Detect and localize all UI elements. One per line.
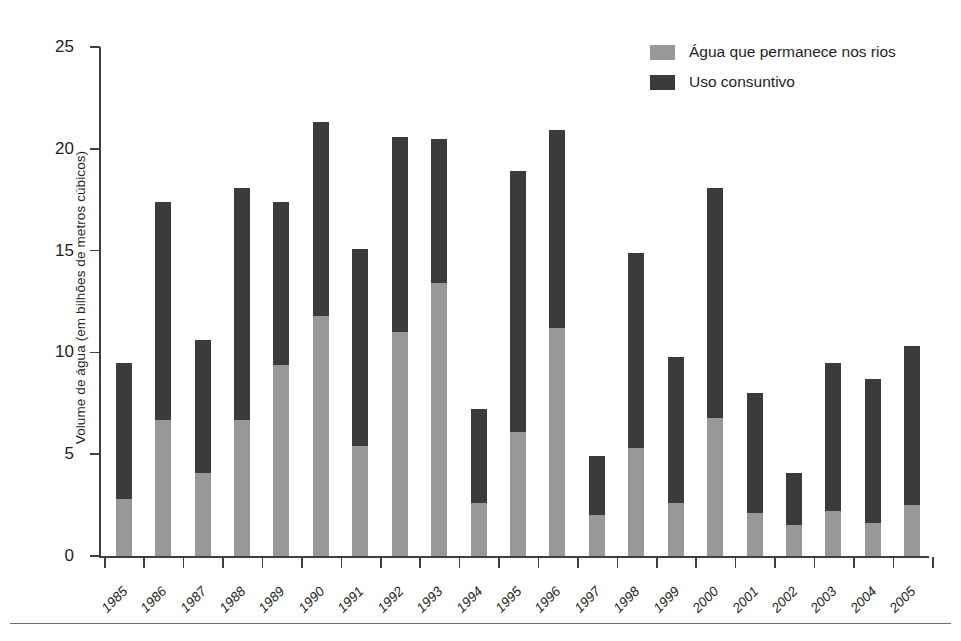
- bar-stack[interactable]: [904, 346, 920, 556]
- bar-segment-uso-consuntivo[interactable]: [510, 171, 526, 432]
- legend-swatch-icon: [650, 45, 675, 60]
- bar-segment-uso-consuntivo[interactable]: [786, 473, 802, 526]
- x-axis-tick: [222, 557, 224, 568]
- bar-segment-uso-consuntivo[interactable]: [273, 202, 289, 365]
- x-axis-tick: [143, 557, 145, 568]
- bar-segment-agua-permanece[interactable]: [825, 511, 841, 556]
- bar-segment-uso-consuntivo[interactable]: [352, 249, 368, 446]
- bar-segment-agua-permanece[interactable]: [865, 523, 881, 556]
- bar-segment-uso-consuntivo[interactable]: [747, 393, 763, 513]
- bar-segment-uso-consuntivo[interactable]: [471, 409, 487, 503]
- legend-item[interactable]: Uso consuntivo: [650, 67, 896, 97]
- bar-segment-agua-permanece[interactable]: [628, 448, 644, 556]
- x-axis-tick: [695, 557, 697, 568]
- bar-stack[interactable]: [471, 409, 487, 556]
- bar-segment-agua-permanece[interactable]: [549, 328, 565, 556]
- bar-segment-uso-consuntivo[interactable]: [628, 253, 644, 448]
- bar-stack[interactable]: [392, 137, 408, 556]
- bar-segment-uso-consuntivo[interactable]: [116, 363, 132, 499]
- x-axis-tick: [380, 557, 382, 568]
- bar-stack[interactable]: [234, 187, 250, 556]
- x-axis-tick-label: 2005: [887, 584, 919, 616]
- bar-stack[interactable]: [668, 356, 684, 556]
- bar-segment-agua-permanece[interactable]: [668, 503, 684, 556]
- bar-segment-uso-consuntivo[interactable]: [865, 379, 881, 524]
- bar-segment-agua-permanece[interactable]: [747, 513, 763, 556]
- x-axis-tick: [341, 557, 343, 568]
- bar-segment-agua-permanece[interactable]: [786, 525, 802, 556]
- bar-segment-uso-consuntivo[interactable]: [155, 202, 171, 420]
- bar-stack[interactable]: [431, 139, 447, 556]
- bar-stack[interactable]: [786, 473, 802, 556]
- x-axis-tick-label: 1992: [374, 584, 406, 616]
- x-axis-tick-label: 2000: [690, 584, 722, 616]
- x-axis-tick-label: 2003: [808, 584, 840, 616]
- bar-segment-agua-permanece[interactable]: [589, 515, 605, 556]
- x-axis-tick: [853, 557, 855, 568]
- bar-segment-agua-permanece[interactable]: [234, 420, 250, 556]
- x-axis-tick-label: 1993: [414, 584, 446, 616]
- bar-stack[interactable]: [155, 202, 171, 556]
- bar-stack[interactable]: [273, 202, 289, 556]
- x-axis-tick: [774, 557, 776, 568]
- y-axis-tick-label: 20: [55, 139, 74, 159]
- bar-segment-uso-consuntivo[interactable]: [549, 130, 565, 327]
- bar-segment-uso-consuntivo[interactable]: [234, 188, 250, 420]
- bar-segment-agua-permanece[interactable]: [273, 365, 289, 556]
- bar-segment-agua-permanece[interactable]: [904, 505, 920, 556]
- bar-segment-agua-permanece[interactable]: [431, 283, 447, 556]
- x-axis-tick-label: 2004: [847, 584, 879, 616]
- bar-segment-agua-permanece[interactable]: [392, 332, 408, 556]
- bar-segment-agua-permanece[interactable]: [155, 420, 171, 556]
- legend-item[interactable]: Água que permanece nos rios: [650, 37, 896, 67]
- bar-stack[interactable]: [549, 130, 565, 556]
- x-axis-tick: [932, 557, 934, 568]
- bar-stack[interactable]: [589, 456, 605, 556]
- bar-stack[interactable]: [707, 187, 723, 556]
- bar-segment-agua-permanece[interactable]: [510, 432, 526, 556]
- bar-segment-uso-consuntivo[interactable]: [904, 346, 920, 505]
- x-axis-tick-label: 1991: [335, 584, 367, 616]
- bar-segment-agua-permanece[interactable]: [116, 499, 132, 556]
- bar-stack[interactable]: [747, 393, 763, 556]
- bar-segment-uso-consuntivo[interactable]: [668, 357, 684, 504]
- x-axis-tick: [538, 557, 540, 568]
- x-axis-tick-label: 2002: [769, 584, 801, 616]
- x-axis-tick-label: 1995: [493, 584, 525, 616]
- bar-stack[interactable]: [352, 249, 368, 556]
- bar-stack[interactable]: [510, 171, 526, 556]
- x-axis-tick: [301, 557, 303, 568]
- y-axis-tick: [90, 46, 100, 48]
- bar-stack[interactable]: [116, 363, 132, 556]
- bar-segment-uso-consuntivo[interactable]: [313, 122, 329, 315]
- bar-segment-agua-permanece[interactable]: [313, 316, 329, 556]
- x-axis-tick: [459, 557, 461, 568]
- x-axis-tick: [262, 557, 264, 568]
- bar-segment-uso-consuntivo[interactable]: [195, 340, 211, 472]
- bar-stack[interactable]: [628, 253, 644, 556]
- y-axis-tick-label: 15: [55, 241, 74, 261]
- bar-stack[interactable]: [865, 379, 881, 556]
- y-axis-tick: [90, 352, 100, 354]
- y-axis-title: Volume de água (em bilhões de metros cúb…: [73, 38, 88, 558]
- y-axis-tick-label: 0: [65, 546, 74, 566]
- bar-segment-agua-permanece[interactable]: [352, 446, 368, 556]
- bar-segment-uso-consuntivo[interactable]: [431, 139, 447, 284]
- x-axis-tick-label: 1987: [177, 584, 209, 616]
- x-axis-tick: [498, 557, 500, 568]
- bar-segment-agua-permanece[interactable]: [707, 418, 723, 556]
- bar-segment-uso-consuntivo[interactable]: [392, 137, 408, 332]
- legend-item-label: Uso consuntivo: [689, 73, 795, 91]
- y-axis-tick: [90, 250, 100, 252]
- bar-segment-uso-consuntivo[interactable]: [707, 188, 723, 418]
- bar-stack[interactable]: [313, 122, 329, 556]
- y-axis-tick-label: 25: [55, 37, 74, 57]
- bar-stack[interactable]: [825, 363, 841, 556]
- bar-segment-uso-consuntivo[interactable]: [825, 363, 841, 512]
- bar-stack[interactable]: [195, 340, 211, 556]
- bar-segment-agua-permanece[interactable]: [195, 473, 211, 556]
- y-axis-tick-label: 5: [65, 444, 74, 464]
- x-axis-tick: [893, 557, 895, 568]
- bar-segment-agua-permanece[interactable]: [471, 503, 487, 556]
- bar-segment-uso-consuntivo[interactable]: [589, 456, 605, 515]
